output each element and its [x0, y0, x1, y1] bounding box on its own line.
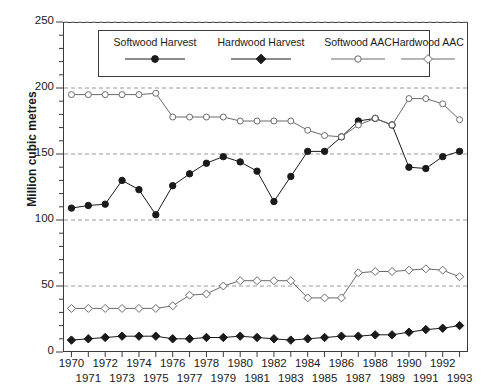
data-point	[439, 266, 447, 274]
data-point	[135, 304, 143, 312]
data-point	[338, 134, 344, 140]
data-point	[203, 114, 209, 120]
data-point	[153, 90, 159, 96]
legend-item: Hardwood Harvest	[207, 36, 315, 66]
data-point	[456, 273, 464, 281]
data-point	[270, 277, 278, 285]
data-point	[236, 332, 244, 340]
data-point	[439, 153, 445, 159]
data-point	[67, 304, 75, 312]
data-point	[84, 335, 92, 343]
data-point	[202, 333, 210, 341]
data-point	[254, 118, 260, 124]
data-point	[271, 198, 277, 204]
chart-figure: Million cubic metres 250200150100500 197…	[0, 0, 488, 384]
data-point	[152, 332, 160, 340]
data-point	[406, 96, 412, 102]
data-point	[220, 114, 226, 120]
data-point	[388, 331, 396, 339]
x-tick-label: 1993	[440, 372, 480, 384]
data-point	[101, 304, 109, 312]
data-point	[153, 212, 159, 218]
data-point	[321, 148, 327, 154]
data-point	[102, 92, 108, 98]
data-point	[118, 304, 126, 312]
data-point	[355, 122, 361, 128]
data-point	[389, 122, 395, 128]
data-point	[372, 115, 378, 121]
data-point	[423, 96, 429, 102]
data-point	[337, 332, 345, 340]
data-point	[102, 201, 108, 207]
data-point	[168, 335, 176, 343]
data-point	[219, 282, 227, 290]
legend-label: Hardwood AAC	[385, 36, 471, 48]
y-tick-label: 200	[20, 80, 54, 92]
legend-item: Hardwood AAC	[343, 36, 429, 66]
data-point	[321, 294, 329, 302]
data-point	[254, 168, 260, 174]
data-point	[119, 92, 125, 98]
legend-symbol-filled-diamond	[207, 52, 315, 66]
data-point	[118, 332, 126, 340]
data-point	[303, 335, 311, 343]
y-axis-ticks	[56, 22, 63, 352]
data-point	[455, 321, 463, 329]
data-point	[186, 171, 192, 177]
legend: Softwood Harvest Hardwood Harvest Softwo…	[98, 30, 430, 77]
data-point	[203, 160, 209, 166]
data-point	[457, 117, 463, 123]
data-point	[187, 114, 193, 120]
data-point	[440, 101, 446, 107]
data-point	[170, 114, 176, 120]
data-point	[67, 336, 75, 344]
data-point	[136, 92, 142, 98]
data-point	[68, 205, 74, 211]
data-point	[85, 202, 91, 208]
data-point	[422, 265, 430, 273]
data-point	[152, 304, 160, 312]
data-point	[237, 118, 243, 124]
data-point	[270, 335, 278, 343]
legend-symbol-filled-circle	[103, 52, 207, 66]
data-point	[423, 165, 429, 171]
data-point	[406, 164, 412, 170]
data-point	[405, 328, 413, 336]
data-point	[237, 159, 243, 165]
data-point	[287, 336, 295, 344]
series-softwood-harvest	[68, 115, 463, 218]
data-point	[354, 332, 362, 340]
data-point	[68, 92, 74, 98]
data-point	[322, 133, 328, 139]
data-point	[119, 177, 125, 183]
data-point	[101, 333, 109, 341]
data-point	[320, 333, 328, 341]
data-point	[219, 333, 227, 341]
legend-symbol-open-diamond	[385, 52, 471, 66]
legend-item: Softwood Harvest	[103, 36, 207, 66]
data-point	[405, 266, 413, 274]
data-point	[169, 182, 175, 188]
series-softwood-aac	[68, 90, 462, 140]
data-point	[371, 267, 379, 275]
data-point	[422, 325, 430, 333]
series-hardwood-harvest	[67, 321, 464, 344]
data-point	[135, 332, 143, 340]
data-point	[288, 118, 294, 124]
data-point	[305, 127, 311, 133]
data-point	[136, 186, 142, 192]
data-point	[354, 269, 362, 277]
series-hardwood-aac	[67, 265, 463, 313]
data-point	[185, 335, 193, 343]
y-tick-label: 50	[20, 278, 54, 290]
data-point	[169, 302, 177, 310]
data-point	[236, 277, 244, 285]
data-point	[85, 92, 91, 98]
y-tick-label: 150	[20, 146, 54, 158]
data-point	[271, 118, 277, 124]
data-point	[337, 294, 345, 302]
x-tick-label: 1992	[423, 357, 463, 369]
legend-label: Hardwood Harvest	[207, 36, 315, 48]
data-point	[371, 331, 379, 339]
data-point	[253, 333, 261, 341]
